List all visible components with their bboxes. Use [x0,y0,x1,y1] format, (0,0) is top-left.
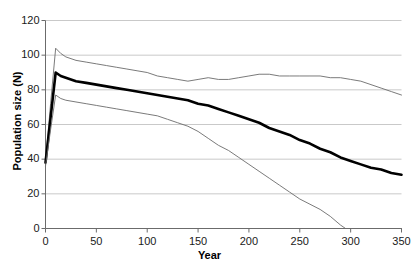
x-axis-tick-label: 50 [79,235,113,247]
y-axis-tick-label: 0 [14,222,40,234]
y-axis-tick-label: 120 [14,14,40,26]
x-axis-tick-label: 150 [181,235,215,247]
chart-plot-area [0,0,419,270]
axis-ticks-group [42,21,402,233]
x-axis-title: Year [0,249,419,261]
data-series-group [46,48,402,228]
x-axis-tick-label: 250 [283,235,317,247]
x-axis-tick-label: 100 [130,235,164,247]
gridlines-group [46,21,402,229]
y-axis-title: Population size (N) [11,51,23,191]
population-projection-chart: 120100806040200 050100150200250300350 Ye… [0,0,419,270]
x-axis-tick-label: 300 [334,235,368,247]
x-axis-tick-label: 200 [232,235,266,247]
x-axis-tick-label: 350 [385,235,419,247]
x-axis-tick-label: 0 [29,235,63,247]
lower-confidence-line [46,95,402,228]
